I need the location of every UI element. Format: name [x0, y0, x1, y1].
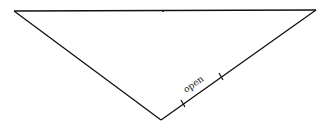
- triangle-diagram: open: [0, 0, 333, 134]
- top-midpoint-mark: [162, 10, 164, 12]
- top-edge: [14, 10, 316, 11]
- left-edge: [14, 11, 161, 120]
- diagram-canvas: open: [0, 0, 333, 134]
- right-edge: [161, 10, 316, 120]
